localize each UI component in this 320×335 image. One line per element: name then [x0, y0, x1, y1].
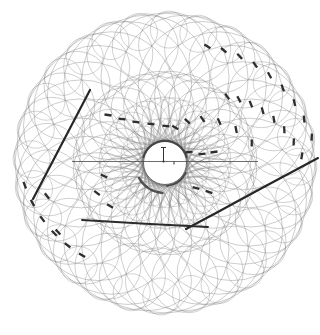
drift-circle	[280, 148, 317, 185]
drift-circle	[16, 150, 82, 216]
hit-dash	[268, 72, 271, 78]
event-display-figure	[0, 0, 320, 335]
hit-dash	[107, 204, 113, 208]
drift-circle	[227, 251, 264, 288]
drift-circle	[143, 278, 180, 315]
drift-circle	[87, 21, 153, 87]
hit-dash	[235, 126, 236, 133]
drift-circle	[152, 246, 218, 312]
hit-dash	[262, 107, 264, 114]
hit-dash	[250, 101, 253, 108]
drift-circle	[16, 171, 53, 208]
hit-dash	[94, 191, 100, 195]
track-right	[186, 158, 318, 229]
drift-circle	[177, 239, 243, 305]
hit-dash	[105, 115, 112, 116]
origin-point	[162, 160, 164, 162]
drift-circle	[277, 118, 314, 155]
drift-circle	[173, 275, 210, 312]
hit-dash	[211, 152, 218, 153]
hit-dash	[148, 124, 155, 125]
hit-dash	[186, 152, 193, 153]
hit-dash	[304, 116, 305, 123]
drift-circle	[120, 14, 157, 51]
drift-circle-mesh-svg	[0, 0, 320, 335]
drift-circle	[253, 64, 290, 101]
hit-dash	[163, 126, 170, 127]
hit-dash	[237, 96, 240, 102]
hit-dash	[218, 118, 221, 124]
drift-circle	[112, 14, 178, 80]
hit-dash	[282, 85, 285, 92]
hit-dash	[253, 62, 257, 68]
hit-dash	[193, 187, 200, 189]
hit-dash	[79, 253, 85, 257]
hit-dash	[40, 216, 44, 222]
hit-dash	[199, 154, 206, 155]
hit-dash	[273, 116, 274, 123]
hit-dash	[206, 191, 213, 193]
drift-circle	[66, 38, 103, 75]
drift-circle	[40, 225, 77, 262]
drift-circle	[92, 23, 129, 60]
hit-dash	[237, 54, 242, 59]
drift-circle	[201, 266, 238, 303]
hit-dash	[133, 122, 140, 123]
hit-dash	[301, 152, 302, 159]
hit-dash	[294, 99, 296, 106]
hit-dash	[119, 119, 126, 120]
drift-circle	[13, 141, 50, 178]
drift-circle	[150, 11, 187, 48]
hit-dash	[204, 45, 210, 49]
